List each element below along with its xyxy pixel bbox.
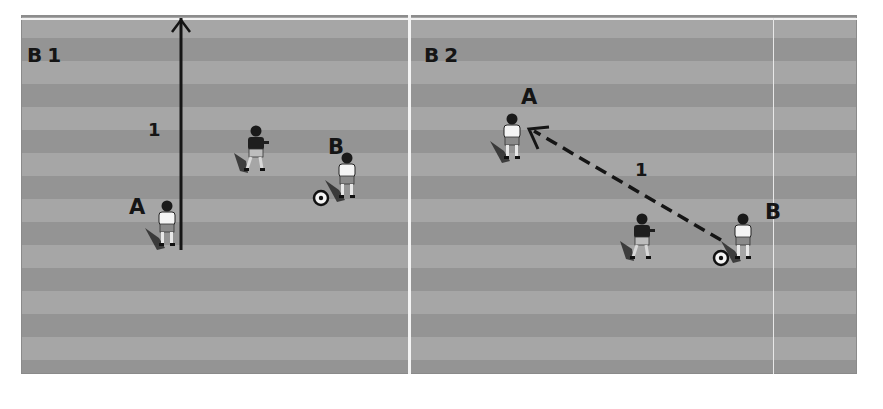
player-a-b1 xyxy=(145,201,175,251)
ball-b1 xyxy=(314,191,328,205)
soccer-field: B1 1 A B B2 1 A B xyxy=(21,15,857,374)
player-a-b2 xyxy=(490,114,520,164)
defender-b1 xyxy=(234,126,269,174)
player-b-b1 xyxy=(325,153,355,203)
ball-b2 xyxy=(714,251,728,265)
diagram-graphics xyxy=(21,15,857,374)
pass-arrow-b2 xyxy=(529,127,721,240)
defender-b2 xyxy=(620,214,655,262)
